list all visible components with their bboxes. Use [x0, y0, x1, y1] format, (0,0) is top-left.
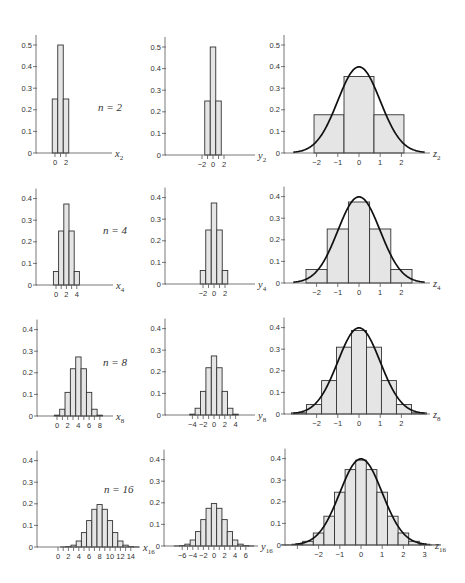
histogram-bar — [217, 508, 222, 546]
histogram-bar — [206, 368, 211, 415]
x-tick-label: 2 — [223, 420, 227, 429]
x-tick-label: 4 — [77, 552, 81, 561]
y-tick-label: 0.4 — [270, 62, 280, 71]
x-tick-label: −2 — [312, 288, 321, 297]
y-tick-label: 0.5 — [270, 41, 280, 50]
x-axis-label: x16 — [142, 542, 155, 556]
y-tick-label: 0.1 — [151, 258, 161, 267]
x-tick-label: 2 — [222, 160, 226, 169]
x-tick-label: −4 — [188, 420, 197, 429]
x-tick-label: 2 — [66, 552, 70, 561]
x-tick-label: 0 — [212, 420, 216, 429]
y-tick-label: 0.3 — [150, 477, 160, 486]
y-tick-label: 0.1 — [270, 388, 280, 397]
y-tick-label: 0 — [29, 543, 33, 552]
histogram-bar — [222, 271, 228, 285]
x-axis-label: z16 — [434, 540, 447, 554]
histogram-bar — [233, 540, 238, 546]
x-tick-label: 6 — [244, 551, 248, 560]
x-axis-label: y2 — [257, 150, 267, 164]
y-tick-label: 0.4 — [23, 456, 33, 465]
panel-y8: 00.10.20.30.4−4−2024y8 — [151, 319, 267, 429]
y-tick-label: 0.2 — [151, 367, 161, 376]
x-tick-label: 2 — [399, 158, 403, 167]
y-tick-label: 0.1 — [270, 127, 280, 136]
x-tick-label: 1 — [378, 288, 382, 297]
histogram-bar — [324, 516, 335, 545]
histogram-bar — [53, 272, 58, 286]
histogram-bar — [313, 533, 324, 545]
histogram-bar — [327, 229, 348, 283]
x-tick-label: 12 — [116, 552, 124, 561]
histogram-bar — [81, 369, 86, 416]
histogram-bar — [345, 470, 356, 545]
x-tick-label: −6 — [178, 551, 187, 560]
x-tick-label: 6 — [87, 421, 91, 430]
x-tick-label: −4 — [189, 551, 198, 560]
x-axis-label: x2 — [114, 148, 124, 162]
y-tick-label: 0 — [156, 542, 160, 551]
histogram-bar — [86, 392, 91, 416]
x-tick-label: −2 — [314, 550, 323, 559]
histogram-bar — [60, 409, 65, 416]
histogram-bar — [398, 533, 409, 545]
histogram-bar — [206, 230, 212, 284]
y-tick-label: 0.2 — [270, 235, 280, 244]
x-tick-label: 1 — [380, 550, 384, 559]
histogram-bar — [336, 347, 351, 414]
y-tick-label: 0.4 — [22, 62, 32, 71]
y-tick-label: 0.2 — [23, 368, 33, 377]
histogram-bar — [201, 391, 206, 415]
x-tick-label: 0 — [211, 160, 215, 169]
x-axis-label: x8 — [115, 411, 125, 425]
y-tick-label: 0.2 — [150, 498, 160, 507]
y-tick-label: 0.1 — [23, 521, 33, 530]
y-tick-label: 0.4 — [270, 192, 280, 201]
x-tick-label: 6 — [87, 552, 91, 561]
histogram-bar — [227, 532, 232, 546]
histogram-bar — [348, 202, 369, 283]
y-tick-label: 0.2 — [271, 497, 281, 506]
histogram-bar — [107, 521, 112, 547]
y-tick-label: 0.3 — [151, 215, 161, 224]
panel-y16: 00.10.20.30.4−6−4−20246y16 — [150, 450, 274, 560]
x-tick-label: 8 — [98, 421, 102, 430]
histogram-bar — [69, 231, 74, 285]
y-tick-label: 0 — [157, 151, 161, 160]
y-tick-label: 0.1 — [23, 390, 33, 399]
histogram-bar — [201, 520, 206, 546]
y-tick-label: 0.4 — [150, 455, 160, 464]
x-tick-label: −1 — [336, 550, 345, 559]
panel-x8: 00.10.20.30.402468x8 — [23, 320, 125, 430]
x-tick-label: 2 — [401, 550, 405, 559]
y-tick-label: 0.3 — [270, 84, 280, 93]
y-tick-label: 0.1 — [151, 389, 161, 398]
x-axis-label: z8 — [432, 409, 441, 423]
histogram-bar — [195, 532, 200, 546]
histogram-bar — [211, 203, 217, 284]
panel-z2: 00.10.20.30.40.5−2−1012z2 — [270, 35, 442, 167]
panels-group: 00.10.20.30.40.502x200.10.20.30.40.5−202… — [22, 35, 447, 561]
y-tick-label: 0.1 — [151, 129, 161, 138]
y-tick-label: 0.5 — [22, 41, 32, 50]
panel-x16: 00.10.20.30.402468101214x16 — [23, 451, 156, 561]
y-tick-label: 0.3 — [270, 214, 280, 223]
histogram-bar — [322, 381, 337, 414]
y-tick-label: 0 — [28, 149, 32, 158]
histogram-bar — [76, 541, 81, 547]
y-tick-label: 0.5 — [151, 43, 161, 52]
histogram-bar — [217, 368, 222, 415]
histogram-bar — [92, 409, 97, 416]
x-tick-label: 4 — [76, 421, 80, 430]
y-tick-label: 0 — [157, 411, 161, 420]
panel-z16: 00.10.20.30.4−2−10123z16 — [271, 449, 447, 559]
y-tick-label: 0.4 — [151, 324, 161, 333]
x-tick-label: 4 — [75, 290, 79, 299]
y-tick-label: 0 — [276, 149, 280, 158]
n-label-row-2: n = 4 — [103, 224, 127, 236]
x-tick-label: 2 — [399, 419, 403, 428]
y-tick-label: 0.4 — [270, 323, 280, 332]
n-label-row-3: n = 8 — [103, 356, 127, 368]
x-axis-label: y8 — [257, 410, 267, 424]
x-tick-label: 3 — [423, 550, 427, 559]
